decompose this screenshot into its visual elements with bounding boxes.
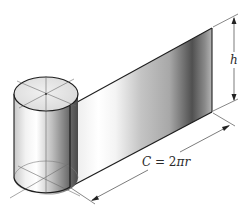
unrolled-sheet [70, 28, 212, 187]
height-dimension: h [213, 14, 238, 111]
sheet-surface [70, 28, 212, 187]
circ-label-r: r [184, 155, 191, 169]
circ-label-c: C [142, 155, 151, 169]
cylinder [10, 76, 80, 198]
arrowhead-left-icon [91, 196, 99, 202]
circ-label-eq: = 2 [151, 155, 176, 169]
circ-dimension-line-lower [92, 170, 148, 200]
circumference-label: C = 2πr [142, 155, 191, 169]
arrowhead-right-icon [222, 125, 230, 131]
circ-extension-left [71, 188, 95, 204]
top-center-point [45, 93, 47, 95]
circ-dimension-line-upper [180, 126, 229, 152]
circ-extension-right [213, 113, 235, 126]
height-label: h [230, 53, 238, 67]
arrowhead-up-icon [232, 17, 237, 24]
height-extension-bottom [213, 99, 238, 111]
cylinder-unroll-diagram: h C = 2πr [0, 0, 249, 214]
